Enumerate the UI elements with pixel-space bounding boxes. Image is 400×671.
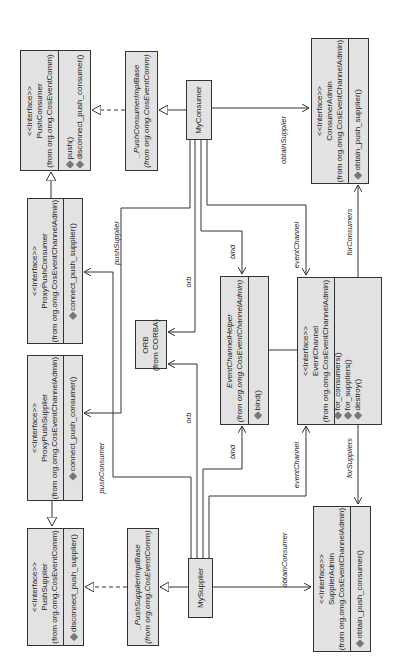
compartment-divider <box>63 529 64 645</box>
operation-icon <box>76 160 84 168</box>
class-my-supplier[interactable]: MySupplier <box>188 558 213 618</box>
class-header: EventChannelHelper (from org.omg.CosEven… <box>225 279 245 421</box>
operation-icon <box>70 633 78 641</box>
operations: connect_push_consumer() <box>68 377 78 480</box>
operation-icon <box>254 411 262 419</box>
class-header: _PushConsumerImplBase (from org.omg.CosE… <box>132 54 152 167</box>
class-consumer-admin[interactable]: <<Interface>> ConsumerAdmin (from org.om… <box>311 38 369 184</box>
label-for-suppliers: forSuppliers <box>345 438 354 478</box>
operations: push() disconnect_push_consumer() <box>65 54 85 167</box>
operation-icon <box>69 312 77 320</box>
operation-icon <box>356 639 364 647</box>
label-orb-supplier: orb <box>184 413 193 424</box>
class-proxy-push-supplier[interactable]: <<Interface>> ProxyPushSupplier (from or… <box>27 355 83 501</box>
label-bind-consumer: bind <box>228 245 237 259</box>
class-name: MyConsumer <box>194 86 204 134</box>
class-event-channel[interactable]: <<Interface>> EventChannel (from org.omg… <box>297 277 382 425</box>
class-proxy-push-consumer[interactable]: <<Interface>> ProxyPushConsumer (from or… <box>27 198 83 344</box>
operation-icon <box>354 171 362 179</box>
class-header: ORB (from CORBA) <box>141 319 161 371</box>
label-event-channel-supplier: eventChannel <box>292 442 301 488</box>
operations: disconnect_push_supplier() <box>69 534 79 640</box>
operations: for_consumers() for_suppliers() destroy(… <box>333 284 363 419</box>
compartment-divider <box>248 277 249 424</box>
class-header: <<Interface>> ProxyPushSupplier (from or… <box>30 357 60 499</box>
compartment-divider <box>348 39 349 183</box>
operations: bind() <box>253 283 263 418</box>
compartment-divider <box>58 51 59 170</box>
label-push-supplier: pushSupplier <box>112 221 121 265</box>
class-header: <<Interface>> ProxyPushConsumer (from or… <box>30 200 60 342</box>
class-push-supplier[interactable]: <<Interface>> PushSupplier (from org.omg… <box>27 528 84 646</box>
class-header: <<Interface>> PushConsumer (from org.omg… <box>25 54 55 167</box>
class-name: MySupplier <box>196 568 206 608</box>
class-header: <<Interface>> EventChannel (from org.omg… <box>301 280 331 422</box>
compartment-divider <box>63 356 64 500</box>
compartment-divider <box>63 199 64 343</box>
class-header: <<Interface>> ConsumerAdmin (from org.om… <box>315 40 345 182</box>
operation-icon <box>344 411 352 419</box>
class-orb[interactable]: ORB (from CORBA) <box>135 320 167 369</box>
compartment-divider <box>350 507 351 651</box>
operations: obtain_push_supplier() <box>353 44 363 179</box>
class-push-consumer-impl-base[interactable]: _PushConsumerImplBase (from org.omg.CosE… <box>125 51 158 171</box>
class-event-channel-helper[interactable]: EventChannelHelper (from org.omg.CosEven… <box>220 276 269 425</box>
class-push-consumer[interactable]: <<Interface>> PushConsumer (from org.omg… <box>20 50 91 171</box>
label-orb-consumer: orb <box>184 277 193 288</box>
class-push-supplier-impl-base[interactable]: _PushSupplierImplBase (from org.omg.CosE… <box>127 528 159 646</box>
label-push-consumer: pushConsumer <box>97 443 106 494</box>
class-header: <<Interface>> SupplierAdmin (from org.om… <box>317 508 347 650</box>
class-supplier-admin[interactable]: <<Interface>> SupplierAdmin (from org.om… <box>313 506 371 652</box>
label-event-channel-consumer: eventChannel <box>292 222 301 268</box>
label-obtain-supplier: obtainSupplier <box>279 116 288 164</box>
class-my-consumer[interactable]: MyConsumer <box>186 80 212 140</box>
class-header: _PushSupplierImplBase (from org.omg.CosE… <box>133 530 153 643</box>
operation-icon <box>66 160 74 168</box>
operations: connect_push_supplier() <box>68 223 78 319</box>
operation-icon <box>334 411 342 419</box>
operation-icon <box>69 472 77 480</box>
operation-icon <box>354 411 362 419</box>
label-bind-supplier: bind <box>228 445 237 459</box>
label-obtain-consumer: obtainConsumer <box>280 532 289 587</box>
label-for-consumers: forConsumers <box>345 208 354 255</box>
class-header: <<Interface>> PushSupplier (from org.omg… <box>30 530 60 643</box>
operations: obtain_push_consumer() <box>355 512 365 647</box>
